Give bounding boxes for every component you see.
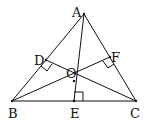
point-a (83, 13, 85, 15)
altitude-cd (46, 60, 136, 101)
label-b: B (8, 106, 18, 121)
label-a: A (71, 5, 82, 20)
label-e: E (70, 106, 80, 121)
point-d (45, 59, 47, 61)
altitude-bf (12, 57, 110, 101)
label-o: O (66, 66, 77, 81)
label-d: D (34, 53, 44, 68)
diagram-svg: A D F O B E C (0, 0, 144, 125)
side-ab (12, 14, 84, 101)
point-b (11, 100, 13, 102)
altitude-ae (74, 14, 84, 101)
label-c: C (130, 106, 140, 121)
point-c (135, 100, 137, 102)
label-f: F (111, 50, 120, 65)
point-e (73, 100, 75, 102)
geometry-diagram: A D F O B E C (0, 0, 144, 125)
